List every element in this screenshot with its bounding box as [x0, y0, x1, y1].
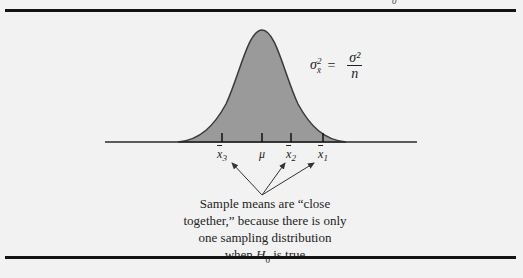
normal-curve [178, 30, 346, 142]
label-xbar3: x3 [217, 147, 227, 163]
formula-fraction: σ² n [347, 50, 362, 81]
label-xbar1: x1 [318, 147, 328, 163]
arrow-to-xbar2 [262, 163, 285, 195]
formula-equals: = [327, 58, 335, 74]
label-xbar2: x2 [286, 147, 296, 163]
caption-line-3: one sampling distribution [165, 229, 365, 246]
variance-formula: σ2x̄ = σ² n [310, 50, 362, 81]
formula-denominator: n [351, 66, 358, 81]
arrow-to-xbar3 [232, 163, 262, 195]
arrow-to-xbar1 [262, 163, 314, 195]
formula-numerator: σ² [347, 50, 362, 66]
caption-line-1: Sample means are “close [165, 195, 365, 212]
label-mu: μ [259, 147, 265, 162]
bottom-rule [5, 256, 516, 259]
formula-lhs: σ2x̄ [310, 57, 321, 75]
caption-line-2: together,” because there is only [165, 212, 365, 229]
